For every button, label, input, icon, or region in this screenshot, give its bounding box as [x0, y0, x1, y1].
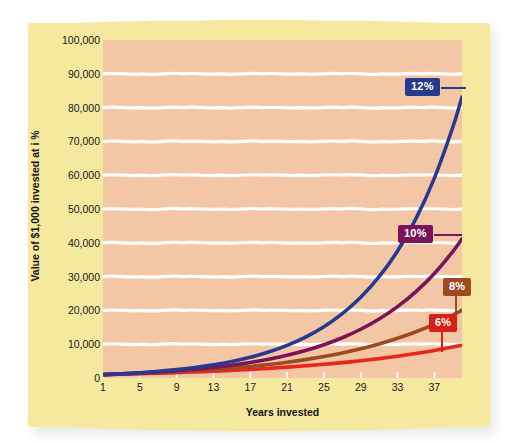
y-tick-label: 10,000 — [26, 339, 100, 350]
x-tick-label: 5 — [137, 382, 143, 393]
gridline — [103, 208, 462, 209]
x-tick-label: 9 — [174, 382, 180, 393]
gridline — [103, 310, 462, 311]
x-tick-label: 25 — [318, 382, 330, 393]
callout-leader-line — [441, 87, 466, 89]
callout-leader-line — [441, 330, 443, 352]
series-callout-10pct: 10% — [398, 225, 433, 243]
gridline — [103, 344, 462, 345]
series-callout-6pct: 6% — [429, 314, 457, 332]
x-axis-tick-labels: 15913172125293337 — [0, 382, 524, 398]
gridline — [103, 175, 462, 176]
series-callout-12pct: 12% — [405, 78, 440, 96]
callout-leader-line — [434, 234, 462, 236]
gridline — [103, 276, 462, 277]
y-tick-label: 100,000 — [26, 35, 100, 46]
series-line-8pct — [103, 310, 462, 375]
gridline — [103, 141, 462, 142]
x-tick-label: 37 — [429, 382, 441, 393]
x-tick-label: 29 — [355, 382, 367, 393]
gridline — [103, 107, 462, 108]
x-tick-label: 1 — [100, 382, 106, 393]
gridline — [103, 73, 462, 74]
x-axis-title: Years invested — [103, 406, 462, 418]
series-callout-8pct: 8% — [443, 278, 471, 296]
y-tick-label: 90,000 — [26, 69, 100, 80]
x-tick-label: 33 — [392, 382, 404, 393]
chart-figure: 010,00020,00030,00040,00050,00060,00070,… — [0, 0, 524, 443]
x-tick-label: 17 — [244, 382, 256, 393]
x-tick-label: 13 — [208, 382, 220, 393]
y-tick-label: 20,000 — [26, 305, 100, 316]
x-tick-label: 21 — [281, 382, 293, 393]
y-axis-title: Value of $1,000 invested at i % — [29, 111, 41, 301]
